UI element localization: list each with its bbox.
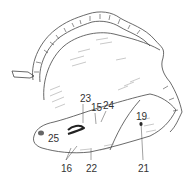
label-22: 22 bbox=[86, 164, 97, 174]
squamous-rim bbox=[33, 12, 182, 132]
label-15: 15 bbox=[91, 103, 102, 113]
label-24: 24 bbox=[103, 101, 114, 111]
label-19: 19 bbox=[136, 112, 147, 122]
temporal-bone-drawing bbox=[0, 0, 195, 180]
label-21: 21 bbox=[138, 164, 149, 174]
label-23: 23 bbox=[80, 94, 91, 104]
label-16: 16 bbox=[61, 164, 72, 174]
internal-acoustic-meatus bbox=[68, 126, 84, 134]
anatomy-figure: 23 15 24 19 25 16 22 21 bbox=[0, 0, 195, 180]
label-25: 25 bbox=[48, 134, 59, 144]
zygomatic-process bbox=[12, 71, 34, 78]
